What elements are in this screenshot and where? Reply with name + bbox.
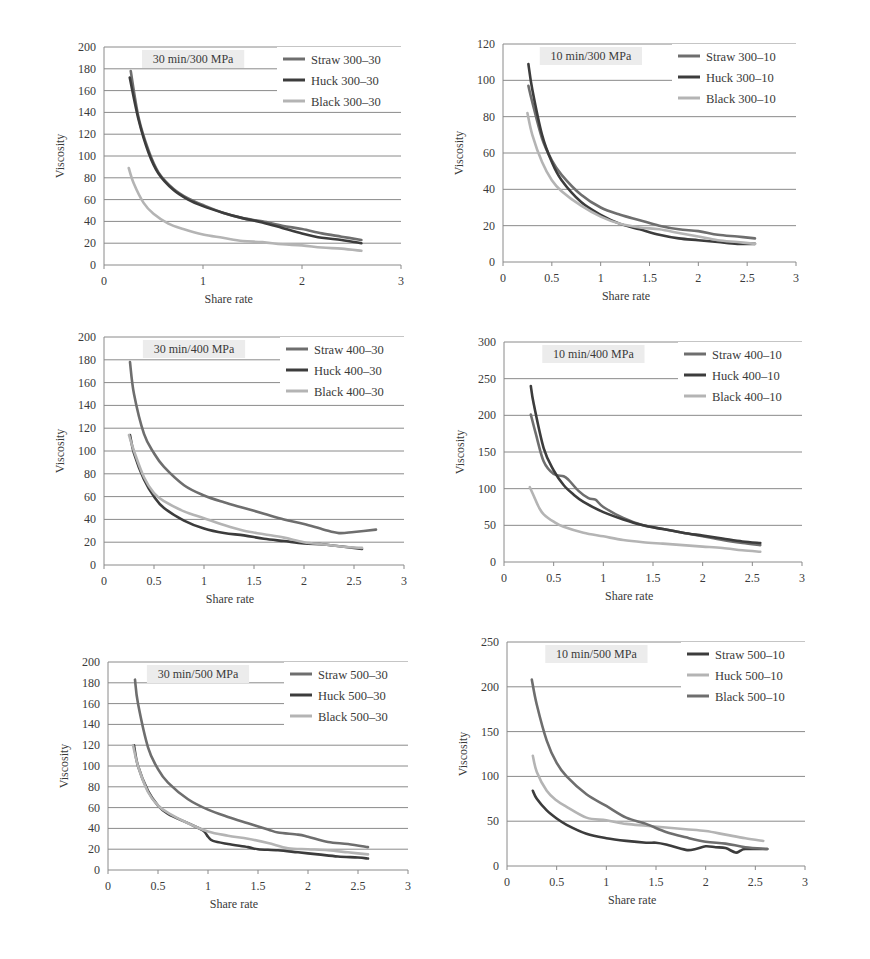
series-line-huck-400-10 bbox=[531, 386, 760, 543]
legend-label-huck-400-10: Huck 400–10 bbox=[712, 369, 780, 383]
x-tick-label: 2 bbox=[305, 879, 311, 893]
y-tick-label: 180 bbox=[82, 676, 100, 690]
legend-label-straw-500-30: Straw 500–30 bbox=[318, 668, 388, 682]
chart-panel-10min-500mpa: 05010015020025000.511.522.53Share rateVi… bbox=[440, 625, 860, 915]
y-tick-label: 20 bbox=[88, 842, 100, 856]
x-tick-label: 0 bbox=[101, 574, 107, 588]
y-tick-label: 200 bbox=[78, 330, 96, 344]
chart-svg: 02040608010012014016018020000.511.522.53… bbox=[40, 325, 440, 620]
x-tick-label: 1 bbox=[598, 271, 604, 285]
legend-label-black-500-10: Black 500–10 bbox=[715, 690, 785, 704]
x-tick-label: 2.5 bbox=[740, 271, 755, 285]
y-tick-label: 100 bbox=[478, 482, 496, 496]
x-tick-label: 1.5 bbox=[642, 271, 657, 285]
y-tick-label: 60 bbox=[483, 146, 495, 160]
x-tick-label: 3 bbox=[793, 271, 799, 285]
y-tick-label: 0 bbox=[490, 555, 496, 569]
x-tick-label: 1.5 bbox=[649, 875, 664, 889]
legend-label-black-300-10: Black 300–10 bbox=[706, 92, 776, 106]
x-tick-label: 2 bbox=[299, 274, 305, 288]
series-line-black-500-30 bbox=[133, 745, 368, 854]
chart-svg: 02040608010012000.511.522.53Share rateVi… bbox=[440, 30, 860, 320]
y-tick-label: 250 bbox=[481, 635, 499, 649]
chart-title: 30 min/300 MPa bbox=[153, 52, 234, 66]
chart-svg: 0204060801001201401601802000123Share rat… bbox=[40, 30, 440, 320]
legend-label-huck-300-10: Huck 300–10 bbox=[706, 71, 774, 85]
y-tick-label: 0 bbox=[90, 558, 96, 572]
y-tick-label: 0 bbox=[90, 258, 96, 272]
y-tick-label: 20 bbox=[84, 535, 96, 549]
x-tick-label: 2.5 bbox=[347, 574, 362, 588]
x-tick-label: 2 bbox=[695, 271, 701, 285]
legend-label-straw-400-10: Straw 400–10 bbox=[712, 348, 782, 362]
x-axis-label: Share rate bbox=[605, 589, 653, 603]
y-tick-label: 20 bbox=[483, 219, 495, 233]
x-tick-label: 3 bbox=[401, 574, 407, 588]
chart-title: 10 min/500 MPa bbox=[556, 647, 637, 661]
x-tick-label: 2.5 bbox=[351, 879, 366, 893]
y-tick-label: 60 bbox=[84, 193, 96, 207]
y-axis-label: Viscosity bbox=[452, 131, 466, 176]
y-tick-label: 160 bbox=[82, 697, 100, 711]
x-tick-label: 2 bbox=[301, 574, 307, 588]
chart-panel-30min-500mpa: 02040608010012014016018020000.511.522.53… bbox=[40, 625, 440, 915]
x-tick-label: 1 bbox=[200, 274, 206, 288]
x-tick-label: 1.5 bbox=[247, 574, 262, 588]
x-tick-label: 1.5 bbox=[646, 571, 661, 585]
y-axis-label: Viscosity bbox=[53, 429, 67, 474]
x-axis-label: Share rate bbox=[602, 289, 650, 303]
x-tick-label: 1 bbox=[600, 571, 606, 585]
x-tick-label: 0 bbox=[501, 571, 507, 585]
y-tick-label: 0 bbox=[493, 859, 499, 873]
x-tick-label: 1 bbox=[201, 574, 207, 588]
y-tick-label: 200 bbox=[481, 680, 499, 694]
y-tick-label: 120 bbox=[477, 37, 495, 51]
legend-label-black-500-30: Black 500–30 bbox=[318, 710, 388, 724]
y-tick-label: 180 bbox=[78, 353, 96, 367]
x-tick-label: 0.5 bbox=[147, 574, 162, 588]
y-tick-label: 100 bbox=[78, 149, 96, 163]
y-tick-label: 60 bbox=[84, 490, 96, 504]
legend-label-straw-400-30: Straw 400–30 bbox=[314, 343, 384, 357]
x-axis-label: Share rate bbox=[210, 897, 258, 911]
y-tick-label: 140 bbox=[78, 105, 96, 119]
y-tick-label: 40 bbox=[483, 182, 495, 196]
y-tick-label: 0 bbox=[489, 255, 495, 269]
y-tick-label: 80 bbox=[88, 780, 100, 794]
y-axis-label: Viscosity bbox=[456, 732, 470, 777]
chart-svg: 05010015020025030000.511.522.53Share rat… bbox=[440, 325, 860, 620]
chart-title: 30 min/500 MPa bbox=[158, 667, 239, 681]
x-tick-label: 2 bbox=[703, 875, 709, 889]
legend-label-straw-300-10: Straw 300–10 bbox=[706, 50, 776, 64]
y-tick-label: 40 bbox=[84, 512, 96, 526]
y-tick-label: 40 bbox=[84, 214, 96, 228]
x-tick-label: 1 bbox=[603, 875, 609, 889]
legend-label-huck-400-30: Huck 400–30 bbox=[314, 364, 382, 378]
chart-title: 30 min/400 MPa bbox=[154, 342, 235, 356]
y-axis-label: Viscosity bbox=[57, 744, 71, 789]
legend-label-straw-500-10: Straw 500–10 bbox=[715, 648, 785, 662]
y-tick-label: 50 bbox=[487, 814, 499, 828]
x-tick-label: 2 bbox=[700, 571, 706, 585]
y-tick-label: 180 bbox=[78, 62, 96, 76]
y-tick-label: 140 bbox=[82, 717, 100, 731]
x-tick-label: 2.5 bbox=[745, 571, 760, 585]
x-tick-label: 1 bbox=[205, 879, 211, 893]
x-tick-label: 3 bbox=[802, 875, 808, 889]
chart-panel-10min-300mpa: 02040608010012000.511.522.53Share rateVi… bbox=[440, 30, 860, 320]
legend-label-black-400-10: Black 400–10 bbox=[712, 390, 782, 404]
legend-label-black-400-30: Black 400–30 bbox=[314, 385, 384, 399]
x-tick-label: 3 bbox=[398, 274, 404, 288]
x-tick-label: 0 bbox=[500, 271, 506, 285]
y-tick-label: 40 bbox=[88, 821, 100, 835]
y-tick-label: 120 bbox=[78, 421, 96, 435]
y-tick-label: 100 bbox=[481, 769, 499, 783]
chart-svg: 02040608010012014016018020000.511.522.53… bbox=[40, 625, 440, 915]
y-tick-label: 80 bbox=[483, 110, 495, 124]
y-tick-label: 160 bbox=[78, 376, 96, 390]
y-tick-label: 120 bbox=[78, 127, 96, 141]
x-tick-label: 0 bbox=[504, 875, 510, 889]
series-line-straw-300-10 bbox=[528, 86, 755, 239]
x-tick-label: 0 bbox=[101, 274, 107, 288]
chart-title: 10 min/400 MPa bbox=[553, 347, 634, 361]
